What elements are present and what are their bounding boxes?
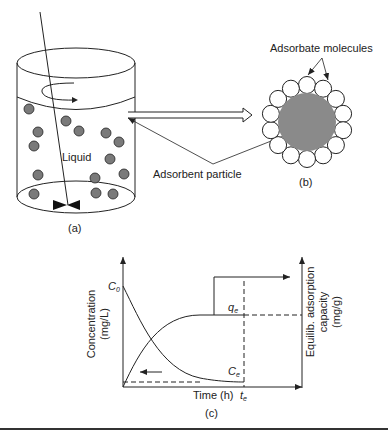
adsorbent-particle-label: Adsorbent particle	[153, 168, 242, 180]
adsorption-curve	[123, 315, 244, 387]
particle	[33, 170, 43, 180]
liquid-surface	[17, 97, 135, 110]
particle	[119, 169, 129, 179]
right-axis-label: Equilib. adsorption capacity (mg/g)	[304, 267, 342, 358]
qe-label: qe	[228, 301, 238, 314]
particle	[29, 189, 39, 199]
figure-canvas: Liquid (a) Adsorbent particle Adsorbate …	[0, 0, 388, 431]
adsorbate-molecule	[315, 147, 332, 164]
adsorbate-molecule	[335, 122, 352, 139]
liquid-label: Liquid	[62, 151, 91, 163]
svg-text:capacity: capacity	[317, 291, 329, 332]
adsorbate-pointers	[308, 58, 328, 80]
rotation-arrow-icon	[42, 83, 76, 100]
particle	[74, 126, 84, 136]
particle	[108, 189, 118, 199]
impeller-icon	[53, 200, 80, 210]
adsorbate-molecule	[299, 151, 316, 168]
particle	[90, 173, 100, 183]
left-axis-label: Concentration (mg/L)	[85, 290, 110, 359]
caption-a: (a)	[68, 222, 81, 234]
c0-label: C0	[108, 280, 120, 293]
svg-text:(mg/L): (mg/L)	[98, 308, 110, 340]
caption-c: (c)	[205, 407, 218, 419]
adsorbate-molecule	[282, 80, 299, 97]
magnify-arrow-icon	[128, 108, 252, 122]
particle	[91, 188, 101, 198]
qe-axis-arrow	[214, 277, 290, 315]
particle	[105, 154, 115, 164]
caption-b: (b)	[299, 176, 312, 188]
kinetics-chart	[123, 257, 302, 388]
svg-text:Concentration: Concentration	[85, 290, 97, 359]
particle	[29, 141, 39, 151]
adsorbent-particle	[278, 93, 336, 151]
particle	[61, 116, 71, 126]
svg-text:Equilib. adsorption: Equilib. adsorption	[304, 267, 316, 358]
ce-label: Ce	[228, 365, 240, 378]
adsorbate-molecule	[299, 77, 316, 94]
adsorbate-molecule	[335, 105, 352, 122]
svg-text:(mg/g): (mg/g)	[330, 296, 342, 328]
adsorbate-molecule	[262, 105, 279, 122]
particle	[114, 137, 124, 147]
adsorbate-molecule	[262, 122, 279, 139]
bottom-rule	[0, 428, 388, 430]
vessel-top-rim	[17, 48, 135, 78]
x-axis-label: Time (h)	[193, 389, 234, 401]
adsorbate-molecules-label: Adsorbate molecules	[270, 42, 373, 54]
stirred-vessel	[17, 12, 135, 213]
particle	[24, 104, 34, 114]
particle	[101, 128, 111, 138]
particle	[33, 127, 43, 137]
te-label: te	[240, 389, 247, 402]
concentration-curve	[123, 286, 244, 382]
